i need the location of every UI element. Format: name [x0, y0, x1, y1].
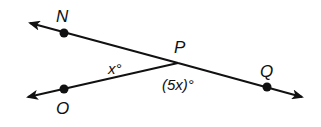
- point-o: [60, 85, 69, 94]
- diagram-canvas: N P Q O x° (5x)°: [0, 0, 321, 127]
- geometry-diagram: N P Q O x° (5x)°: [0, 0, 321, 127]
- angle-label-5x: (5x)°: [162, 76, 194, 93]
- label-n: N: [56, 7, 69, 26]
- label-o: O: [56, 99, 69, 118]
- point-q: [263, 83, 272, 92]
- line-pq: [178, 63, 302, 97]
- label-p: P: [174, 38, 186, 57]
- point-n: [60, 29, 69, 38]
- label-q: Q: [260, 62, 273, 81]
- line-nq: [30, 23, 178, 63]
- angle-label-x: x°: [107, 60, 122, 77]
- ray-po: [28, 63, 178, 97]
